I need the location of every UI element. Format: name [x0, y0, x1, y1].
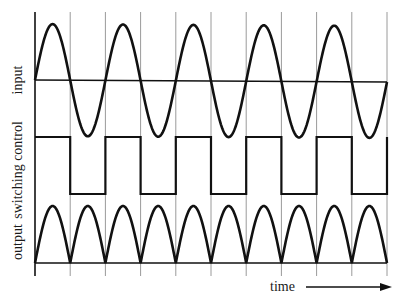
rectifier-timing-diagram: input switching control output time [0, 0, 403, 300]
output-label: output [10, 224, 25, 260]
time-arrow-icon [306, 283, 392, 291]
switching-control-square-wave [35, 137, 387, 194]
input-label: input [10, 66, 25, 95]
vertical-gridlines [70, 12, 387, 276]
switching-control-group [35, 137, 387, 194]
time-label: time [270, 279, 295, 294]
switching-control-label: switching control [10, 121, 25, 219]
